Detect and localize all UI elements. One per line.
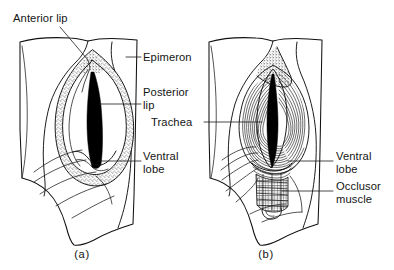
label-trachea: Trachea <box>151 116 193 128</box>
caption-group: (a) (b) <box>74 248 273 260</box>
label-ventral-lobe-a-line2: lobe <box>143 163 165 175</box>
label-ventral-lobe-a: Ventral <box>143 150 179 162</box>
label-ventral-lobe-b-line2: lobe <box>336 163 358 175</box>
figure-canvas: Anterior lip Epimeron Posterior lip Trac… <box>0 0 394 270</box>
label-ventral-lobe-b: Ventral <box>336 150 372 162</box>
label-posterior-lip-line2: lip <box>143 99 155 111</box>
caption-panel-a: (a) <box>74 248 89 260</box>
label-anterior-lip: Anterior lip <box>13 12 68 24</box>
label-epimeron: Epimeron <box>143 51 192 63</box>
panel-a <box>20 38 137 246</box>
spiracle-figure: Anterior lip Epimeron Posterior lip Trac… <box>0 0 394 270</box>
label-occlusor-muscle: Occlusor <box>336 180 381 192</box>
label-posterior-lip: Posterior <box>143 86 189 98</box>
label-occlusor-muscle-line2: muscle <box>336 193 372 205</box>
panel-b <box>209 38 322 246</box>
caption-panel-b: (b) <box>258 248 273 260</box>
